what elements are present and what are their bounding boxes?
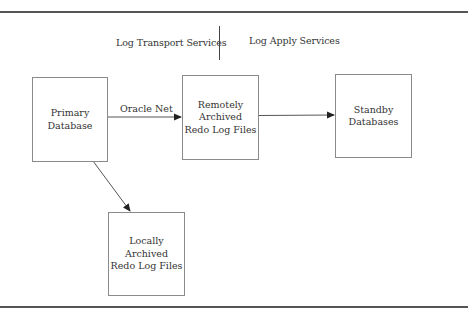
locally-archived-redo-log-files-label: Locally Archived Redo Log Files bbox=[111, 235, 183, 273]
remotely-archived-redo-log-files-label: Remotely Archived Redo Log Files bbox=[185, 99, 257, 137]
primary-database-node: Primary Database bbox=[32, 77, 108, 162]
edge-remote-to-standby-arrow bbox=[258, 115, 334, 116]
primary-database-label: Primary Database bbox=[47, 107, 92, 132]
remotely-archived-redo-log-files-node: Remotely Archived Redo Log Files bbox=[182, 75, 259, 160]
edge-primary-to-local-arrow bbox=[93, 161, 130, 211]
locally-archived-redo-log-files-node: Locally Archived Redo Log Files bbox=[108, 212, 185, 296]
standby-databases-label: Standby Databases bbox=[349, 104, 399, 129]
standby-databases-node: Standby Databases bbox=[335, 74, 412, 158]
oracle-net-edge-label: Oracle Net bbox=[120, 103, 173, 114]
